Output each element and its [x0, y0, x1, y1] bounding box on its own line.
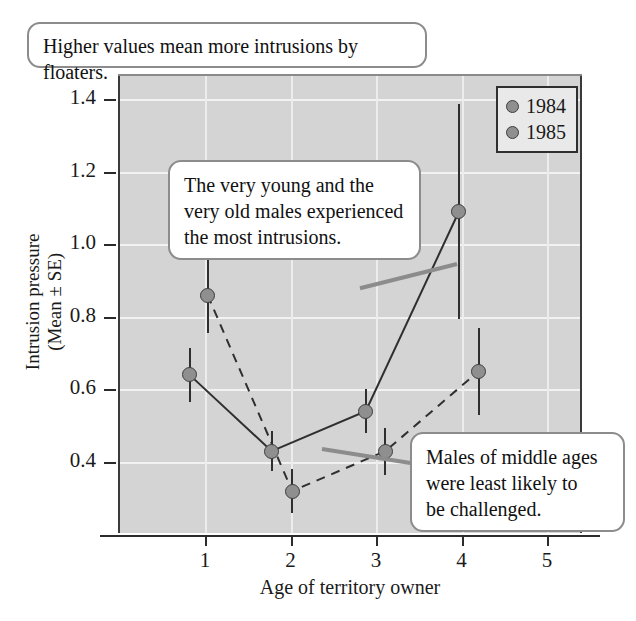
x-axis-title: Age of territory owner	[160, 576, 540, 599]
x-tick-mark	[547, 535, 549, 546]
x-tick-label: 5	[532, 548, 562, 573]
gridline-horizontal	[120, 317, 580, 319]
callout-young-old: The very young and the very old males ex…	[168, 160, 421, 260]
legend-label: 1985	[526, 121, 566, 144]
legend-marker-icon	[506, 100, 519, 113]
data-point-marker	[285, 484, 300, 499]
x-tick-mark	[205, 535, 207, 546]
x-tick-mark	[291, 535, 293, 546]
x-tick-label: 1	[190, 548, 220, 573]
y-axis-title: Intrusion pressure (Mean ± SE)	[22, 172, 66, 432]
callout-young-line2: very old males experienced	[184, 198, 405, 224]
callout-title: Higher values mean more intrusions by fl…	[27, 22, 427, 68]
data-point-marker	[200, 288, 215, 303]
x-tick-mark	[462, 535, 464, 546]
gridline-vertical	[291, 76, 293, 533]
callout-middle-line3: be challenged.	[426, 496, 609, 522]
callout-young-line1: The very young and the	[184, 172, 405, 198]
y-tick-label: 0.4	[24, 448, 96, 473]
callout-middle-ages: Males of middle ages were least likely t…	[410, 432, 625, 532]
data-point-marker	[471, 364, 486, 379]
x-tick-label: 3	[361, 548, 391, 573]
x-tick-label: 4	[447, 548, 477, 573]
callout-middle-line2: were least likely to	[426, 470, 609, 496]
y-tick-mark	[104, 172, 116, 174]
y-axis-title-line2: (Mean ± SE)	[44, 172, 66, 432]
x-axis-line	[100, 535, 600, 537]
y-tick-mark	[104, 99, 116, 101]
gridline-vertical	[376, 76, 378, 533]
data-point-marker	[264, 444, 279, 459]
legend: 1984 1985	[496, 86, 578, 153]
x-tick-label: 2	[276, 548, 306, 573]
legend-marker-icon	[506, 126, 519, 139]
y-axis-title-line1: Intrusion pressure	[22, 172, 44, 432]
data-point-marker	[358, 404, 373, 419]
callout-middle-line1: Males of middle ages	[426, 444, 609, 470]
y-tick-mark	[104, 462, 116, 464]
legend-label: 1984	[526, 95, 566, 118]
y-tick-mark	[104, 244, 116, 246]
x-tick-mark	[376, 535, 378, 546]
callout-young-line3: the most intrusions.	[184, 224, 405, 250]
y-tick-mark	[104, 317, 116, 319]
y-tick-label: 1.4	[24, 85, 96, 110]
legend-item-1984[interactable]: 1984	[506, 93, 572, 119]
legend-item-1985[interactable]: 1985	[506, 119, 572, 145]
y-tick-mark	[104, 389, 116, 391]
chart-page: 1.41.21.00.80.60.4 12345 Age of territor…	[0, 0, 636, 621]
